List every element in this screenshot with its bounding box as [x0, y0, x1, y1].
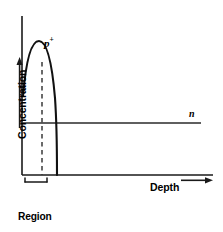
damage-region-caption: Region of maximum damage [18, 186, 77, 232]
p-plus-label-superscript: + [50, 35, 54, 44]
caption-line-1: Region [18, 211, 77, 223]
y-axis-label-text: Concentration [16, 70, 28, 139]
p-plus-curve-label: p+ [33, 22, 54, 64]
y-axis-label: Concentration [13, 43, 31, 139]
n-level-label: n [189, 108, 195, 120]
x-axis-label-text: Depth [150, 181, 179, 194]
implantation-profile-figure: Concentration Depth p+ n Region of maxim… [0, 0, 223, 232]
damage-region-brace [25, 178, 47, 182]
